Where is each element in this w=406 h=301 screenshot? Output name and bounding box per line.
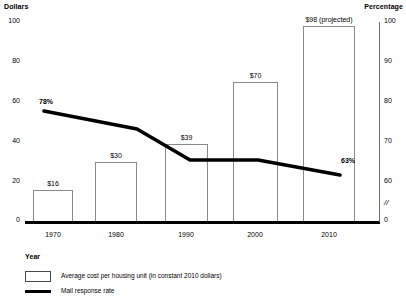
legend-item-average-cost: Average cost per housing unit (in consta… [25, 271, 222, 282]
x-tick-1980: 1980 [99, 231, 133, 238]
line-label-start: 78% [39, 98, 53, 105]
legend-label-mail-response-rate: Mail response rate [61, 288, 114, 295]
line-label-end: 63% [341, 157, 355, 164]
legend-label-average-cost: Average cost per housing unit (in consta… [61, 273, 222, 280]
x-tick-1970: 1970 [36, 231, 70, 238]
mail-response-rate-line [44, 111, 340, 175]
x-tick-2010: 2010 [312, 231, 346, 238]
x-tick-2000: 2000 [238, 231, 272, 238]
chart-page: Dollars Percentage Year 100 80 60 40 20 … [0, 0, 406, 301]
x-tick-1990: 1990 [169, 231, 203, 238]
legend-item-mail-response-rate: Mail response rate [25, 288, 114, 295]
legend-swatch-bar-icon [25, 271, 51, 282]
chart-plot-area [0, 0, 406, 301]
legend-swatch-line-icon [25, 290, 51, 293]
